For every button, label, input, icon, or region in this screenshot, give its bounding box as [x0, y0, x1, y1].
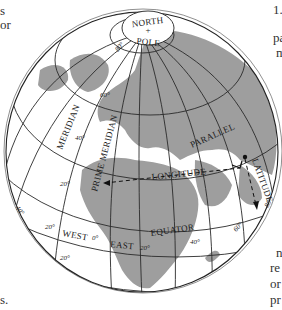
lat-40-label: 40°: [75, 134, 85, 142]
lon-0-label: 0°: [92, 234, 99, 242]
lat-60-label: 60°: [100, 91, 110, 99]
globe-figure: NORTH + POLE 80° 60° 40° 20° 40° 20° 0° …: [0, 0, 282, 310]
lon-20e-label: 20°: [140, 244, 150, 252]
lon-40e-label: 40°: [190, 238, 200, 246]
point-marker-icon: [243, 155, 247, 159]
lat-minus-20-label: 20°: [60, 254, 70, 262]
pole-marker: +: [145, 25, 150, 35]
lon-20w-label: 20°: [45, 223, 55, 231]
lat-20-label: 20°: [60, 180, 70, 188]
